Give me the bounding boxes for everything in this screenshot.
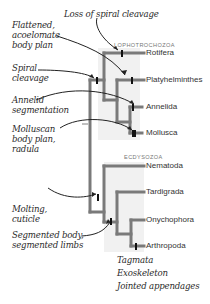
clade-label-ecdysozoa: ECDYSOZOA [124, 154, 163, 160]
annotation-loss-spiral-cleavage: Loss of spiral cleavage [64, 9, 159, 19]
annotation-line: Spiral [12, 63, 49, 73]
annotation-line: cleavage [12, 73, 49, 83]
annotation-molting-cuticle: Molting, cuticle [12, 204, 47, 224]
annotation-molluscan-body-plan: Molluscan body plan, radula [12, 124, 55, 154]
annotation-line: cuticle [12, 214, 47, 224]
annotation-line: Segmented body, [12, 230, 84, 240]
taxon-mollusca: Mollusca [146, 128, 178, 138]
taxon-platyhelminthes: Platyhelminthes [146, 75, 202, 85]
taxon-annelida: Annelida [146, 102, 177, 112]
annotation-line: acoelomate [12, 30, 60, 40]
annotation-line: radula [12, 144, 55, 154]
annotation-segmented-body: Segmented body, segmented limbs [12, 230, 84, 250]
annotation-line: segmentation [12, 105, 69, 115]
annotation-line: Flattened, [12, 20, 60, 30]
taxon-nematoda: Nematoda [146, 161, 183, 171]
annotation-line: Exoskeleton [117, 267, 199, 280]
annotation-spiral-cleavage: Spiral cleavage [12, 63, 49, 83]
annotation-line: Tagmata [117, 254, 199, 267]
annotation-line: Jointed appendages [117, 280, 199, 293]
annotation-annelid-segmentation: Annelid segmentation [12, 95, 69, 115]
annotation-line: segmented limbs [12, 240, 84, 250]
annotation-arthropod-traits: Tagmata Exoskeleton Jointed appendages [117, 254, 199, 293]
annotation-line: Molting, [12, 204, 47, 214]
taxon-onychophora: Onychophora [146, 215, 194, 225]
annotation-line: Annelid [12, 95, 69, 105]
annotation-flattened: Flattened, acoelomate body plan [12, 20, 60, 50]
annotation-line: body plan [12, 40, 60, 50]
taxon-tardigrada: Tardigrada [146, 187, 184, 197]
taxon-rotifera: Rotifera [146, 48, 174, 58]
annotation-line: Molluscan [12, 124, 55, 134]
annotation-line: body plan, [12, 134, 55, 144]
taxon-arthropoda: Arthropoda [146, 241, 186, 251]
